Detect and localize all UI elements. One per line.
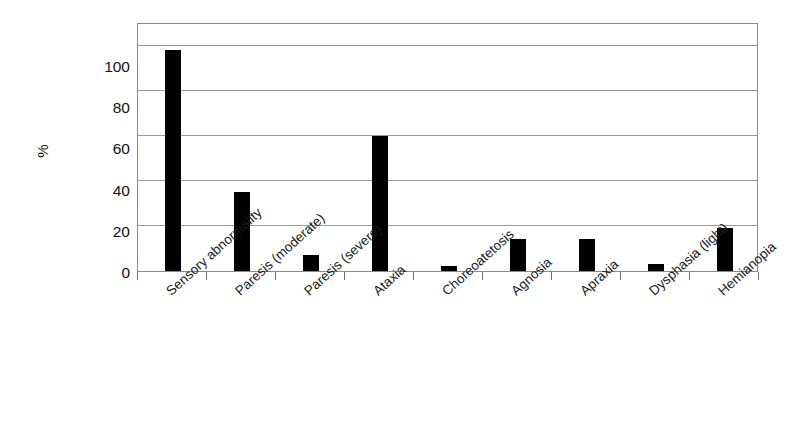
x-category-label: Hemianopia	[716, 240, 779, 298]
x-category-label: Agnosia	[509, 255, 554, 298]
x-category-label: Ataxia	[371, 263, 408, 298]
bar-chart: % 100 80 60 40 20 0 Sensory abnormalityP…	[0, 0, 795, 426]
x-category-label: Apraxia	[578, 257, 621, 298]
x-category-label: Choreoatetosis	[440, 227, 517, 298]
x-axis-category-labels: Sensory abnormalityParesis (moderate)Par…	[0, 0, 795, 426]
